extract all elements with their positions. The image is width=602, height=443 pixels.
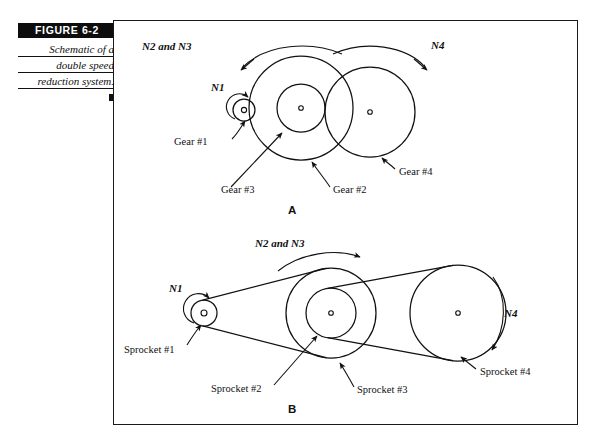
sprocket-3-leader-b <box>340 363 354 387</box>
caption-line-1: Schematic of a <box>18 41 116 57</box>
n1-rotation-arrow-a <box>226 94 248 119</box>
sprocket-2-leader-b <box>274 336 317 385</box>
gear-4-leader-a <box>382 158 395 169</box>
sprocket-4-circle <box>410 265 506 361</box>
sprocket-1-shaft-icon <box>201 310 207 316</box>
gear-2-leader-a <box>312 162 330 187</box>
belt-1-upper <box>203 268 327 300</box>
caption-end-marker <box>18 89 116 101</box>
caption-line-3: reduction system. <box>18 73 116 89</box>
n2n3-rotation-arrowhead-a <box>241 59 254 70</box>
sprocket-4-shaft-icon <box>456 311 461 316</box>
label-n2-n3-b: N2 and N3 <box>254 237 305 249</box>
sprocket-1-circle <box>191 300 217 326</box>
n1-rotation-arrow-b <box>183 294 209 323</box>
sublabel-a: A <box>288 204 296 216</box>
gear-1-circle <box>233 99 255 121</box>
figure-page: FIGURE 6-2 Schematic of a double speed r… <box>0 0 602 443</box>
belt-2-upper <box>328 265 454 288</box>
label-n4-a: N4 <box>430 39 445 51</box>
label-gear-3: Gear #3 <box>221 184 255 195</box>
n4-rotation-arc-a <box>333 46 426 68</box>
belt-2-lower <box>328 338 454 361</box>
sprocket-2-3-shaft-icon <box>329 311 334 316</box>
gear-3-leader-a <box>231 133 282 187</box>
gear-4-shaft-icon <box>368 110 373 115</box>
belt-1-lower <box>203 326 327 358</box>
label-n1-a: N1 <box>210 81 224 93</box>
sprocket-1-leader-b <box>187 325 201 345</box>
diagram-b: N1 N2 and N3 N4 Sprocket #1 Sprocket #2 … <box>124 237 531 415</box>
sprocket-2-circle <box>306 288 356 338</box>
label-sprocket-1: Sprocket #1 <box>124 344 174 355</box>
label-gear-1: Gear #1 <box>174 136 208 147</box>
label-gear-4: Gear #4 <box>399 166 433 177</box>
n4-rotation-arrow-b <box>492 277 503 350</box>
n2n3-rotation-arrow-b <box>278 253 360 271</box>
gear-3-circle <box>277 84 325 132</box>
caption-line-2: double speed <box>18 57 116 73</box>
label-n1-b: N1 <box>168 282 182 294</box>
label-sprocket-2: Sprocket #2 <box>211 383 261 394</box>
n4-rotation-arrowhead-a <box>414 59 427 70</box>
gear-2-3-shaft-icon <box>299 106 304 111</box>
figure-number-badge: FIGURE 6-2 <box>18 23 116 38</box>
gear-4-circle <box>325 67 415 157</box>
gear-2-circle <box>249 56 353 160</box>
sublabel-b: B <box>288 403 296 415</box>
label-gear-2: Gear #2 <box>333 184 367 195</box>
diagram-a: N1 N2 and N3 N4 Gear #1 Gear #3 Gear #4 <box>141 39 445 216</box>
label-n4-b: N4 <box>503 307 518 319</box>
gear-1-shaft-icon <box>241 107 246 112</box>
schematic-canvas: N1 N2 and N3 N4 Gear #1 Gear #3 Gear #4 <box>114 21 576 423</box>
figure-caption-block: FIGURE 6-2 Schematic of a double speed r… <box>18 23 116 101</box>
gear-1-leader-a <box>232 121 245 139</box>
label-sprocket-4: Sprocket #4 <box>480 366 531 377</box>
label-n2-n3-a: N2 and N3 <box>141 40 192 52</box>
label-sprocket-3: Sprocket #3 <box>357 384 407 395</box>
figure-panel: N1 N2 and N3 N4 Gear #1 Gear #3 Gear #4 <box>113 20 578 425</box>
